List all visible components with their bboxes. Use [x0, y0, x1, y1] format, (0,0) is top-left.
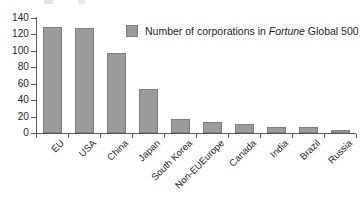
chart-legend: Number of corporations in Fortune Global…	[126, 25, 359, 37]
y-axis-tick-label: 80	[1, 62, 29, 72]
x-axis-tick-mark	[132, 134, 133, 138]
bar-chart-figure: 020406080100120140 EUUSAChinaJapanSouth …	[0, 0, 361, 211]
y-axis-tick-label: 60	[1, 79, 29, 89]
legend-text-italic: Fortune	[269, 25, 305, 37]
bar	[331, 130, 350, 133]
bar	[107, 53, 126, 134]
y-axis-tick-label: 20	[1, 112, 29, 122]
y-axis-tick-label: 100	[1, 46, 29, 56]
x-axis-tick-mark	[36, 134, 37, 138]
x-axis-tick-mark	[292, 134, 293, 138]
legend-text-after: Global 500	[305, 25, 359, 37]
y-axis-tick-label: 140	[1, 13, 29, 23]
x-axis-tick-mark	[356, 134, 357, 138]
y-axis-tick-label: 120	[1, 29, 29, 39]
x-axis-tick-mark	[196, 134, 197, 138]
x-axis-tick-mark	[164, 134, 165, 138]
bar	[171, 119, 190, 133]
bar	[267, 127, 286, 133]
cropped-text-artifact	[44, 0, 124, 4]
x-axis-tick-mark	[260, 134, 261, 138]
x-axis-tick-mark	[68, 134, 69, 138]
bar	[43, 27, 62, 133]
bar	[235, 124, 254, 133]
bar	[203, 122, 222, 133]
bar	[299, 127, 318, 133]
bar	[139, 89, 158, 133]
y-axis-tick-label: 0	[1, 128, 29, 138]
x-axis-tick-mark	[324, 134, 325, 138]
legend-text-before: Number of corporations in	[145, 25, 269, 37]
x-axis-tick-mark	[100, 134, 101, 138]
x-axis-tick-mark	[228, 134, 229, 138]
bar	[75, 28, 94, 133]
legend-swatch-icon	[126, 25, 138, 37]
y-axis-tick-label: 40	[1, 95, 29, 105]
legend-label: Number of corporations in Fortune Global…	[145, 25, 359, 37]
